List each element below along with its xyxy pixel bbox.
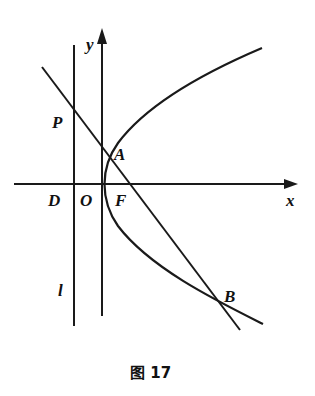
x-axis-label: x — [285, 191, 295, 210]
y-axis-arrow-icon — [97, 28, 107, 44]
x-axis-arrow-icon — [284, 179, 298, 189]
parabola-curve — [105, 48, 264, 324]
secant-line — [42, 67, 240, 330]
point-b-label: B — [223, 287, 235, 306]
point-p-label: P — [51, 113, 63, 132]
line-l-label: l — [58, 281, 63, 300]
point-d-label: D — [47, 191, 60, 210]
origin-label: O — [80, 191, 92, 210]
point-f-label: F — [114, 191, 127, 210]
parabola-diagram: y x P A D O F l B 图 17 — [0, 0, 315, 396]
y-axis-label: y — [84, 35, 94, 54]
figure-caption: 图 17 — [130, 364, 171, 382]
point-a-label: A — [113, 145, 125, 164]
